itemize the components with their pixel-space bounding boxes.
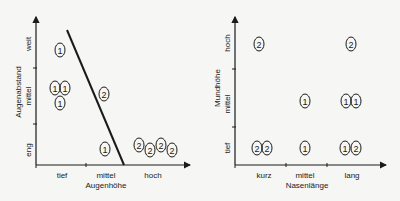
svg-text:2: 2 — [169, 146, 174, 156]
right-ytick-tief: tief — [223, 142, 232, 153]
svg-text:1: 1 — [102, 145, 107, 155]
class-node: 2 — [254, 37, 264, 51]
svg-text:2: 2 — [101, 90, 106, 100]
class-node: 1 — [300, 141, 310, 155]
right-xtick-mittel: mittel — [295, 171, 314, 180]
class-node: 1 — [351, 94, 361, 108]
svg-text:1: 1 — [342, 144, 347, 154]
class-node: 1 — [50, 81, 60, 95]
svg-text:2: 2 — [353, 144, 358, 154]
svg-text:1: 1 — [353, 97, 358, 107]
svg-text:1: 1 — [343, 97, 348, 107]
svg-text:2: 2 — [147, 146, 152, 156]
svg-text:2: 2 — [158, 141, 163, 151]
left-xlabel: Augenhöhe — [86, 181, 127, 190]
diagram-canvas: tief mittel hoch Augenhöhe eng mittel we… — [0, 0, 400, 201]
class-node: 2 — [156, 138, 166, 152]
right-ytick-mittel: mittel — [223, 94, 232, 113]
left-xtick-tief: tief — [57, 171, 68, 180]
svg-text:2: 2 — [264, 144, 269, 154]
left-chart: tief mittel hoch Augenhöhe eng mittel we… — [14, 17, 190, 190]
class-node: 1 — [300, 94, 310, 108]
left-ytick-eng: eng — [24, 143, 33, 156]
class-node: 1 — [55, 43, 65, 57]
svg-text:1: 1 — [57, 99, 62, 109]
right-ytick-hoch: hoch — [223, 34, 232, 51]
class-node: 2 — [134, 138, 144, 152]
svg-text:1: 1 — [302, 97, 307, 107]
separating-line — [67, 30, 124, 165]
class-node: 1 — [55, 96, 65, 110]
right-xtick-lang: lang — [344, 171, 359, 180]
svg-text:1: 1 — [302, 144, 307, 154]
left-xtick-mittel: mittel — [96, 171, 115, 180]
right-xlabel: Nasenlänge — [286, 181, 329, 190]
svg-text:1: 1 — [62, 84, 67, 94]
class-node: 1 — [60, 81, 70, 95]
class-node: 2 — [262, 141, 272, 155]
class-node: 2 — [252, 141, 262, 155]
right-chart: kurz mittel lang Nasenlänge tief mittel … — [213, 17, 386, 190]
right-ylabel: Mundhöhe — [213, 69, 222, 107]
svg-text:1: 1 — [57, 46, 62, 56]
class-node: 1 — [340, 141, 350, 155]
class-node: 2 — [145, 143, 155, 157]
class-node: 2 — [351, 141, 361, 155]
class-node: 1 — [341, 94, 351, 108]
class-node: 2 — [99, 87, 109, 101]
class-node: 2 — [167, 143, 177, 157]
left-ytick-weit: weit — [24, 36, 33, 52]
right-xtick-kurz: kurz — [256, 171, 271, 180]
svg-text:2: 2 — [254, 144, 259, 154]
svg-text:2: 2 — [256, 40, 261, 50]
svg-text:2: 2 — [348, 40, 353, 50]
svg-text:2: 2 — [136, 141, 141, 151]
class-node: 2 — [346, 37, 356, 51]
left-xtick-hoch: hoch — [144, 171, 161, 180]
svg-text:1: 1 — [52, 84, 57, 94]
class-node: 1 — [100, 142, 110, 156]
left-ylabel: Augenabstand — [14, 66, 23, 118]
left-ytick-mittel: mittel — [24, 86, 33, 105]
